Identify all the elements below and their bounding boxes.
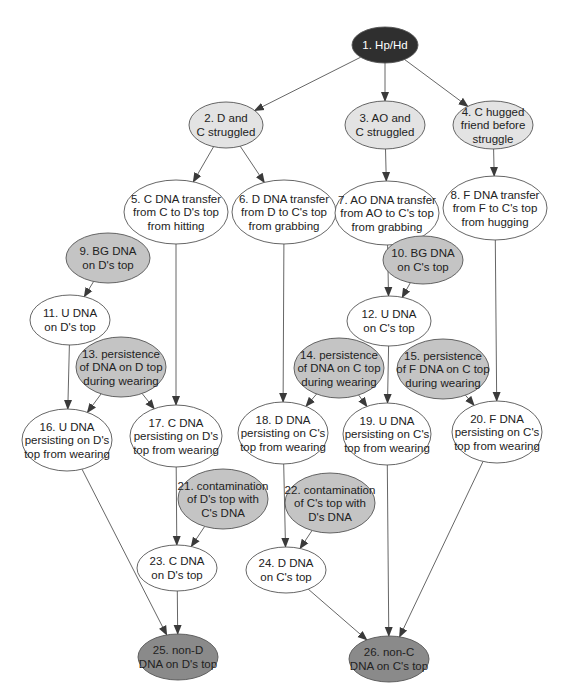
node-label: 6. D DNA transfer	[239, 193, 329, 205]
bayesian-network-diagram: 1. Hp/Hd2. D andC struggled3. AO andC st…	[0, 0, 571, 700]
edge-15-to-20	[465, 395, 474, 405]
node-label: of D's top with	[187, 493, 259, 505]
node-label: 25. non-D	[153, 644, 204, 656]
edge-9-to-11	[84, 282, 93, 297]
node-label: friend before	[461, 119, 526, 131]
node-label: of DNA on D top	[79, 361, 162, 373]
edge-14-to-19	[359, 395, 367, 406]
node-label: 12. U DNA	[362, 308, 417, 320]
edge-13-to-16	[87, 394, 101, 413]
node-label: persisting on C's	[455, 426, 540, 438]
node-label: C's DNA	[201, 507, 245, 519]
edge-1-to-4	[405, 60, 468, 107]
edge-2-to-6	[240, 146, 264, 182]
node-8[interactable]: 8. F DNA transferfrom F to C's topfrom h…	[443, 176, 547, 240]
node-10[interactable]: 10. BG DNAon C's top	[383, 236, 463, 284]
node-label: 23. C DNA	[150, 555, 205, 567]
node-label: 19. U DNA	[360, 415, 415, 427]
node-label: 24. D DNA	[259, 557, 314, 569]
node-label: of DNA on C top	[297, 362, 380, 374]
node-label: 17. C DNA	[149, 417, 204, 429]
node-label: 11. U DNA	[43, 307, 97, 319]
node-label: 5. C DNA transfer	[131, 193, 221, 205]
node-15[interactable]: 15. persistenceof F DNA on C topduring w…	[396, 339, 489, 399]
edge-8-to-20	[495, 240, 496, 401]
node-label: on D's top	[82, 259, 133, 271]
node-label: during wearing	[405, 377, 480, 389]
node-label: on D's top	[44, 321, 95, 333]
node-label: top from wearing	[454, 440, 540, 452]
node-9[interactable]: 9. BG DNAon D's top	[66, 233, 150, 283]
node-label: 7. AO DNA transfer	[338, 194, 436, 206]
node-label: DNA on D's top	[139, 658, 217, 670]
node-3[interactable]: 3. AO andC struggled	[345, 101, 425, 149]
node-label: 15. persistence	[404, 350, 482, 362]
node-label: 22. contamination	[285, 484, 376, 496]
node-4[interactable]: 4. C huggedfriend beforestruggle	[453, 101, 533, 149]
node-label: persisting on D's	[134, 430, 219, 442]
node-20[interactable]: 20. F DNApersisting on C'stop from weari…	[452, 401, 542, 463]
node-label: persisting on C's	[241, 427, 326, 439]
node-label: 10. BG DNA	[391, 247, 455, 259]
node-label: during wearing	[83, 375, 158, 387]
edge-2-to-5	[193, 147, 213, 182]
node-label: during wearing	[301, 376, 376, 388]
node-label: D's DNA	[308, 511, 352, 523]
edge-3-to-7	[386, 149, 387, 181]
edge-1-to-2	[255, 57, 361, 110]
node-16[interactable]: 16. U DNApersisting on D'stop from weari…	[22, 409, 112, 471]
node-12[interactable]: 12. U DNAon C's top	[347, 296, 431, 346]
node-label: top from wearing	[344, 442, 430, 454]
node-label: 2. D and	[204, 112, 247, 124]
edge-11-to-16	[68, 345, 70, 409]
node-label: on D's top	[151, 569, 202, 581]
node-label: from grabbing	[352, 221, 423, 233]
node-label: C struggled	[356, 126, 415, 138]
node-21[interactable]: 21. contaminationof D's top withC's DNA	[178, 469, 269, 529]
edge-13-to-17	[142, 394, 154, 409]
edge-14-to-18	[306, 394, 317, 406]
edge-6-to-18	[283, 244, 284, 402]
node-18[interactable]: 18. D DNApersisting on C'stop from weari…	[238, 402, 328, 464]
nodes-layer: 1. Hp/Hd2. D andC struggled3. AO andC st…	[22, 27, 547, 682]
node-14[interactable]: 14. persistenceof DNA on C topduring wea…	[294, 338, 384, 398]
node-1[interactable]: 1. Hp/Hd	[352, 27, 418, 63]
node-label: from F to C's top	[453, 202, 538, 214]
node-label: top from wearing	[24, 448, 110, 460]
node-label: 4. C hugged	[462, 106, 525, 118]
node-label: from C to D's top	[133, 206, 219, 218]
node-label: DNA on C's top	[350, 660, 428, 672]
node-2[interactable]: 2. D andC struggled	[189, 102, 263, 148]
node-label: C struggled	[197, 126, 256, 138]
node-26[interactable]: 26. non-CDNA on C's top	[349, 636, 429, 682]
node-label: struggle	[473, 133, 514, 145]
node-label: top from wearing	[133, 444, 219, 456]
node-label: of F DNA on C top	[396, 363, 489, 375]
node-label: from hitting	[148, 220, 205, 232]
node-13[interactable]: 13. persistenceof DNA on D topduring wea…	[76, 337, 166, 397]
node-label: 1. Hp/Hd	[362, 39, 407, 51]
edge-10-to-12	[402, 283, 410, 298]
node-23[interactable]: 23. C DNAon D's top	[137, 545, 217, 591]
edge-4-to-8	[494, 149, 495, 176]
node-label: top from wearing	[240, 441, 326, 453]
node-11[interactable]: 11. U DNAon D's top	[30, 295, 110, 345]
node-label: on C's top	[397, 261, 448, 273]
node-label: 16. U DNA	[40, 421, 95, 433]
node-5[interactable]: 5. C DNA transferfrom C to D's topfrom h…	[124, 180, 228, 244]
node-label: 20. F DNA	[470, 413, 524, 425]
node-17[interactable]: 17. C DNApersisting on D'stop from weari…	[130, 405, 222, 467]
edge-12-to-19	[388, 346, 389, 403]
node-label: on C's top	[363, 322, 414, 334]
node-22[interactable]: 22. contaminationof C's top withD's DNA	[285, 473, 376, 533]
edge-22-to-24	[300, 531, 312, 549]
edge-20-to-26	[400, 462, 483, 637]
node-25[interactable]: 25. non-DDNA on D's top	[138, 634, 218, 680]
graph-canvas: 1. Hp/Hd2. D andC struggled3. AO andC st…	[0, 0, 571, 700]
node-6[interactable]: 6. D DNA transferfrom D to C's topfrom g…	[232, 180, 336, 244]
edge-19-to-26	[387, 465, 389, 636]
node-24[interactable]: 24. D DNAon C's top	[246, 547, 326, 593]
node-19[interactable]: 19. U DNApersisting on C'stop from weari…	[343, 403, 431, 465]
node-label: from AO to C's top	[340, 207, 434, 219]
node-7[interactable]: 7. AO DNA transferfrom AO to C's topfrom…	[335, 181, 439, 245]
